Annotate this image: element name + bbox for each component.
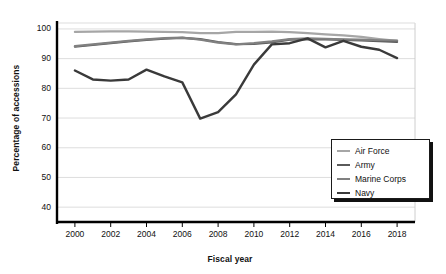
- plot-area: [0, 0, 446, 274]
- legend-swatch-icon: [337, 164, 350, 166]
- legend-label: Marine Corps: [355, 174, 406, 184]
- chart-figure: Percentage of accessions Fiscal year 405…: [0, 0, 446, 274]
- legend-swatch-icon: [337, 150, 350, 152]
- chart-legend: Air ForceArmyMarine CorpsNavy: [331, 139, 430, 199]
- legend-item-army[interactable]: Army: [337, 158, 429, 171]
- legend-swatch-icon: [337, 192, 350, 194]
- legend-swatch-icon: [337, 178, 350, 180]
- legend-label: Army: [355, 160, 375, 170]
- legend-item-marine-corps[interactable]: Marine Corps: [337, 172, 429, 185]
- legend-item-navy[interactable]: Navy: [337, 186, 429, 199]
- legend-label: Air Force: [355, 146, 389, 156]
- legend-label: Navy: [355, 188, 374, 198]
- legend-item-air-force[interactable]: Air Force: [337, 144, 429, 157]
